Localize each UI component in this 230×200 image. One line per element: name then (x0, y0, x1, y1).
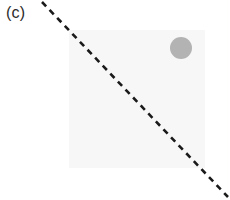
figure-overlay (0, 0, 230, 200)
circle-marker (170, 37, 192, 59)
panel-label: (c) (6, 3, 25, 23)
dashed-diagonal-line (42, 2, 228, 197)
figure-panel: (c) (0, 0, 230, 200)
